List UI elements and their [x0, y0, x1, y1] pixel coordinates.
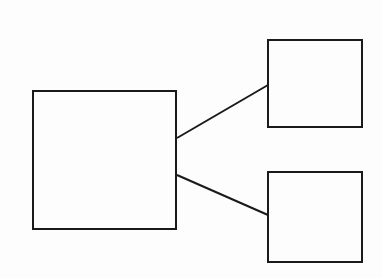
diagram-canvas	[0, 0, 382, 278]
edges-layer	[177, 85, 268, 215]
tree-diagram	[0, 0, 382, 278]
connector-parent-to-child-bottom	[177, 175, 268, 215]
nodes-layer	[33, 40, 362, 262]
node-box-child-bottom	[268, 172, 362, 262]
node-box-parent	[33, 91, 176, 229]
node-box-child-top	[268, 40, 362, 127]
connector-parent-to-child-top	[177, 85, 268, 138]
